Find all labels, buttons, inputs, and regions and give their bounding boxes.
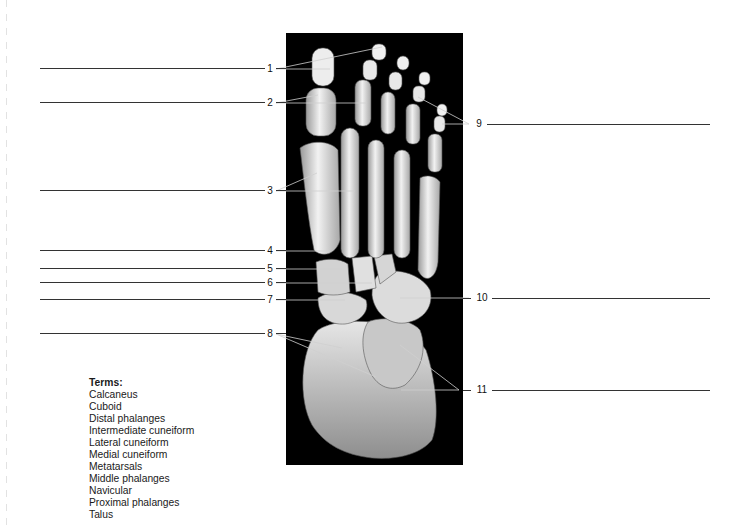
label-number-11: 11 xyxy=(476,385,488,395)
term-item: Medial cuneiform xyxy=(89,449,194,461)
answer-line-10[interactable] xyxy=(492,298,710,299)
label-number-5: 5 xyxy=(266,264,274,274)
answer-line-2[interactable] xyxy=(40,102,265,103)
term-item: Intermediate cuneiform xyxy=(89,425,194,437)
label-number-6: 6 xyxy=(266,278,274,288)
leader-stub-6 xyxy=(276,282,286,283)
terms-heading: Terms: xyxy=(89,377,194,389)
leader-stub-5 xyxy=(276,268,286,269)
term-item: Metatarsals xyxy=(89,461,194,473)
term-item: Distal phalanges xyxy=(89,413,194,425)
label-number-2: 2 xyxy=(266,98,274,108)
margin-perforation xyxy=(6,0,7,526)
term-item: Navicular xyxy=(89,485,194,497)
foot-skeleton-photo xyxy=(286,33,463,465)
leader-stub-11 xyxy=(463,390,471,391)
answer-line-1[interactable] xyxy=(40,68,265,69)
leader-stub-10 xyxy=(463,298,471,299)
term-item: Cuboid xyxy=(89,401,194,413)
leader-stub-2 xyxy=(276,102,286,103)
label-number-9: 9 xyxy=(475,119,483,129)
term-item: Proximal phalanges xyxy=(89,497,194,509)
answer-line-8[interactable] xyxy=(40,333,265,334)
term-item: Calcaneus xyxy=(89,389,194,401)
leader-stub-7 xyxy=(276,299,286,300)
answer-line-9[interactable] xyxy=(487,124,710,125)
term-item: Lateral cuneiform xyxy=(89,437,194,449)
leader-stub-8 xyxy=(276,333,286,334)
worksheet: 1 2 3 4 5 6 7 8 9 10 11 Terms: Calcaneus… xyxy=(0,0,738,526)
label-number-3: 3 xyxy=(266,186,274,196)
term-item: Middle phalanges xyxy=(89,473,194,485)
leader-stub-4 xyxy=(276,250,286,251)
answer-line-3[interactable] xyxy=(40,190,265,191)
answer-line-11[interactable] xyxy=(492,390,710,391)
answer-line-4[interactable] xyxy=(40,250,265,251)
label-number-4: 4 xyxy=(266,246,274,256)
leader-stub-3 xyxy=(276,190,286,191)
label-number-10: 10 xyxy=(475,293,488,303)
label-number-8: 8 xyxy=(266,329,274,339)
leader-stub-1 xyxy=(276,68,286,69)
answer-line-7[interactable] xyxy=(40,299,265,300)
terms-list: Terms: Calcaneus Cuboid Distal phalanges… xyxy=(89,377,194,521)
answer-line-5[interactable] xyxy=(40,268,265,269)
label-number-7: 7 xyxy=(266,295,274,305)
answer-line-6[interactable] xyxy=(40,282,265,283)
label-number-1: 1 xyxy=(266,64,274,74)
term-item: Talus xyxy=(89,509,194,521)
